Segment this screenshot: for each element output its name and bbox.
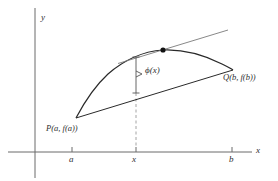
diagram-canvas bbox=[0, 0, 278, 181]
tick-label-x: x bbox=[132, 155, 136, 164]
secant-chord-PQ bbox=[76, 70, 233, 118]
point-label-P: P(a, f(a)) bbox=[46, 124, 78, 133]
tangent-line bbox=[118, 30, 228, 64]
tick-label-b: b bbox=[229, 155, 234, 164]
point-label-Q: Q(b, f(b)) bbox=[223, 73, 256, 82]
tangent-contact-dot bbox=[160, 47, 165, 52]
function-curve bbox=[76, 50, 233, 118]
phi-arrow-icon bbox=[136, 71, 142, 77]
y-axis-label: y bbox=[41, 13, 45, 22]
tick-label-a: a bbox=[69, 155, 74, 164]
x-axis-label: x bbox=[256, 146, 260, 155]
figure-container: y x a x b P(a, f(a)) Q(b, f(b)) ϕ(x) bbox=[0, 0, 278, 181]
phi-function-label: ϕ(x) bbox=[145, 66, 160, 75]
